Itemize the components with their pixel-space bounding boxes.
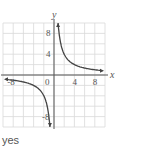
answer-text: yes [2, 134, 19, 146]
svg-text:0: 0 [45, 77, 50, 87]
svg-text:8: 8 [93, 77, 98, 87]
svg-text:8: 8 [46, 28, 51, 38]
svg-text:y: y [51, 9, 57, 20]
svg-text:x: x [109, 69, 115, 80]
svg-text:4: 4 [72, 77, 77, 87]
graph: xy -804884-8 [0, 0, 163, 132]
svg-text:4: 4 [46, 49, 51, 59]
svg-text:-8: -8 [7, 77, 15, 87]
svg-text:-8: -8 [42, 112, 50, 122]
